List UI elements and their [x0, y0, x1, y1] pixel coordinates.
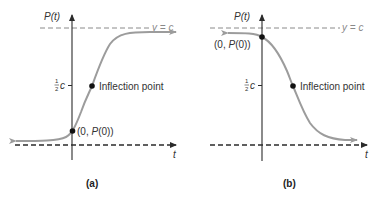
initial-point-label: (0, P(0)): [77, 126, 114, 137]
initial-point-label: (0, P(0)): [214, 39, 251, 50]
logistic-diagrams: y = c t P(t) 1 2 c (0, P(0)) Inflection …: [0, 0, 377, 198]
t-axis-label: t: [365, 149, 369, 160]
inflection-point-label: Inflection point: [99, 81, 164, 92]
inflection-point: [89, 83, 95, 89]
inflection-point: [290, 83, 296, 89]
half-c-label: c: [60, 80, 65, 91]
caption-a: (a): [86, 178, 98, 189]
initial-point: [259, 34, 265, 40]
half-c-label: c: [250, 80, 255, 91]
inflection-point-label: Inflection point: [300, 81, 365, 92]
half-numerator: 1: [55, 78, 59, 84]
half-denominator: 2: [55, 86, 59, 92]
t-axis-label: t: [173, 149, 177, 160]
caption-b: (b): [283, 178, 296, 189]
initial-point: [70, 128, 76, 134]
p-axis-label: P(t): [234, 11, 250, 22]
half-denominator: 2: [245, 86, 249, 92]
panel-a: y = c t P(t) 1 2 c (0, P(0)) Inflection …: [15, 11, 177, 189]
asymptote-label: y = c: [341, 22, 363, 33]
half-numerator: 1: [245, 78, 249, 84]
panel-b: y = c t P(t) 1 2 c (0, P(0)) Inflection …: [210, 11, 369, 189]
p-axis-label: P(t): [44, 11, 60, 22]
